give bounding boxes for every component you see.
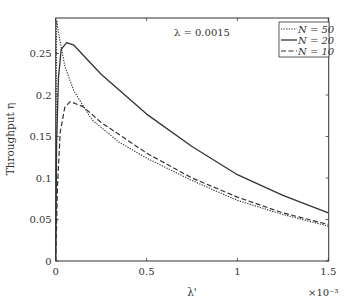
lambda-annotation: λ = 0.0015 xyxy=(174,27,230,38)
x-axis-label: λ' xyxy=(187,286,197,298)
legend: N = 50N = 20N = 10 xyxy=(279,22,335,57)
y-tick-label: 0 xyxy=(45,256,51,267)
throughput-chart: 00.511.5 00.050.10.150.20.25 λ' ×10⁻³ Th… xyxy=(0,0,351,307)
x-tick-label: 1.5 xyxy=(320,266,336,277)
y-axis-label: Throughput η xyxy=(4,103,16,176)
x-tick-label: 0 xyxy=(53,266,59,277)
legend-label: N = 10 xyxy=(297,46,335,57)
x-axis-multiplier: ×10⁻³ xyxy=(308,287,338,298)
y-tick-label: 0.2 xyxy=(36,90,52,101)
y-tick-label: 0.25 xyxy=(29,48,51,59)
x-tick-label: 0.5 xyxy=(139,266,155,277)
legend-label: N = 20 xyxy=(297,35,335,46)
x-tick-label: 1 xyxy=(234,266,240,277)
y-tick-label: 0.05 xyxy=(29,214,51,225)
legend-label: N = 50 xyxy=(297,24,335,35)
y-tick-label: 0.15 xyxy=(29,131,51,142)
y-tick-label: 0.1 xyxy=(36,173,52,184)
